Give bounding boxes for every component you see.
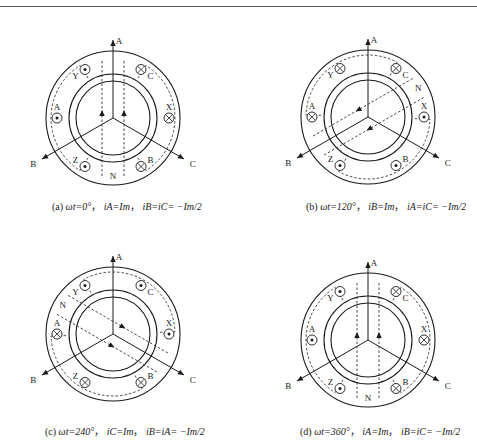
pole-label-n: N xyxy=(110,171,117,181)
slot-y: Y xyxy=(72,281,90,298)
pole-label-n: N xyxy=(365,393,372,403)
coil-loop xyxy=(339,119,430,179)
slot-b: B xyxy=(136,371,153,388)
slot-label: B xyxy=(147,371,153,381)
coil-loop xyxy=(306,55,397,115)
slot-label: X xyxy=(166,102,173,112)
axis-label-b: B xyxy=(30,375,36,385)
caption-c: (c) ωt=240°， iC=Im， iB=iA= −Im/2 xyxy=(45,423,205,438)
axis-label-c: C xyxy=(190,159,196,169)
caption-d: (d) ωt=360°， iA=Im， iB=iC= −Im/2 xyxy=(300,423,460,438)
slot-b: B xyxy=(391,377,408,394)
slot-label: B xyxy=(402,154,408,164)
pole-label-n: N xyxy=(60,300,67,310)
slot-x: X xyxy=(419,101,429,122)
flux-line xyxy=(57,315,157,373)
current-out-dot-icon xyxy=(84,68,87,71)
slot-z: Z xyxy=(73,371,90,388)
axis-label-a: A xyxy=(116,36,123,46)
slot-label: A xyxy=(309,101,316,111)
coil-loop xyxy=(84,272,175,332)
slot-z: Z xyxy=(73,155,90,172)
current-out-dot-icon xyxy=(56,117,59,120)
slot-c: C xyxy=(391,64,408,81)
current-out-dot-icon xyxy=(311,339,314,342)
pole-label-n: N xyxy=(415,83,422,93)
slot-label: A xyxy=(54,102,61,112)
slot-x: X xyxy=(164,102,174,123)
slot-label: C xyxy=(147,287,153,297)
slot-c: C xyxy=(136,281,153,298)
caption-a: (a) ωt=0°， iA=Im， iB=iC= −Im/2 xyxy=(52,198,202,213)
slot-y: Y xyxy=(72,65,90,82)
slot-z: Z xyxy=(328,154,345,171)
panel-c: ABCAXBYCZN xyxy=(30,252,195,401)
flux-line xyxy=(323,98,423,156)
slot-label: B xyxy=(147,155,153,165)
slot-a: A xyxy=(52,102,62,123)
axis-label-a: A xyxy=(116,252,123,262)
panel-b: ABCAXBYCZN xyxy=(285,35,450,184)
slot-c: C xyxy=(391,287,408,304)
current-out-dot-icon xyxy=(423,116,426,119)
axis-b xyxy=(297,117,368,158)
rotating-magnetic-field-figure: ABCAXBYCZNABCAXBYCZNABCAXBYCZNABCAXBYCZN xyxy=(0,0,477,442)
slot-label: Y xyxy=(327,70,334,80)
flux-line xyxy=(68,295,168,353)
slot-c: C xyxy=(136,65,153,82)
slot-label: B xyxy=(402,377,408,387)
slot-label: C xyxy=(147,71,153,81)
current-out-dot-icon xyxy=(339,290,342,293)
slot-label: Z xyxy=(328,377,334,387)
slot-b: B xyxy=(136,155,153,172)
panel-d: ABCAXBYCZN xyxy=(285,258,450,407)
current-out-dot-icon xyxy=(339,164,342,167)
current-out-dot-icon xyxy=(168,333,171,336)
axis-label-c: C xyxy=(445,381,451,391)
slot-z: Z xyxy=(328,377,345,394)
slot-label: Y xyxy=(327,293,334,303)
slot-label: X xyxy=(421,101,428,111)
axis-label-a: A xyxy=(371,258,378,268)
slot-y: Y xyxy=(327,64,345,81)
panel-a: ABCAXBYCZN xyxy=(30,36,195,185)
slot-label: Y xyxy=(72,71,79,81)
slot-a: A xyxy=(307,101,317,122)
axis-label-b: B xyxy=(30,159,36,169)
slot-x: X xyxy=(419,324,429,345)
slot-b: B xyxy=(391,154,408,171)
slot-label: X xyxy=(421,324,428,334)
axis-label-a: A xyxy=(371,35,378,45)
slot-label: Z xyxy=(73,155,79,165)
coil-loop xyxy=(51,336,142,396)
slot-label: A xyxy=(309,324,316,334)
current-out-dot-icon xyxy=(339,387,342,390)
slot-label: A xyxy=(54,318,61,328)
axis-c xyxy=(113,334,184,375)
axis-label-b: B xyxy=(285,381,291,391)
current-out-dot-icon xyxy=(140,284,143,287)
axis-label-c: C xyxy=(445,158,451,168)
current-out-dot-icon xyxy=(84,165,87,168)
flux-line xyxy=(312,78,412,136)
slot-label: C xyxy=(402,70,408,80)
slot-x: X xyxy=(164,318,174,339)
axis-label-b: B xyxy=(285,158,291,168)
slot-a: A xyxy=(52,318,62,339)
current-out-dot-icon xyxy=(395,164,398,167)
slot-a: A xyxy=(307,324,317,345)
slot-y: Y xyxy=(327,287,345,304)
slot-label: Y xyxy=(72,287,79,297)
current-out-dot-icon xyxy=(84,284,87,287)
caption-b: (b) ωt=120°， iB=Im， iA=iC= −Im/2 xyxy=(306,198,466,213)
axis-label-c: C xyxy=(190,375,196,385)
slot-label: Z xyxy=(328,154,334,164)
slot-label: C xyxy=(402,293,408,303)
slot-label: Z xyxy=(73,371,79,381)
slot-label: X xyxy=(166,318,173,328)
